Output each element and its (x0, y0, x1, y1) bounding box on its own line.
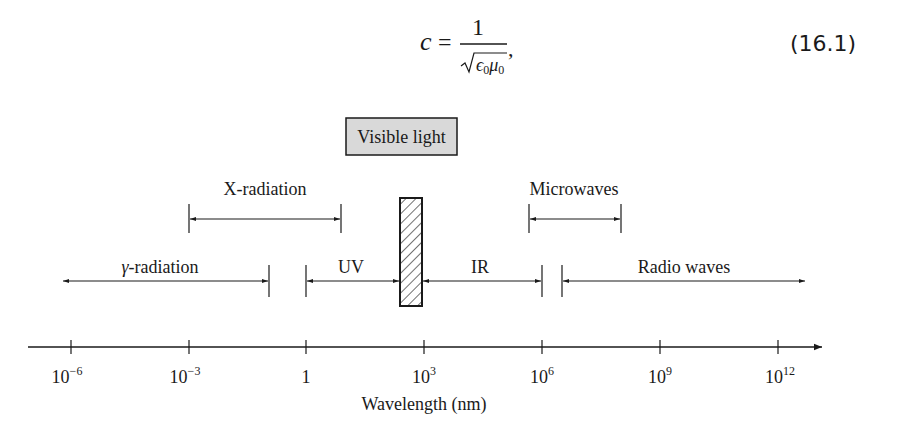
equation-lhs: c (420, 27, 432, 56)
band-uv: UV (306, 257, 399, 297)
tick-label-1: 1 (302, 367, 311, 387)
band-x-radiation: X-radiation (189, 179, 341, 233)
radio-waves-label: Radio waves (638, 257, 730, 277)
ir-label: IR (471, 257, 489, 277)
tick-label-1e-3: 10−3 (170, 364, 201, 387)
tick-label-1e12: 1012 (765, 364, 795, 387)
uv-label: UV (338, 257, 364, 277)
visible-band-hatch (400, 198, 422, 306)
band-ir: IR (423, 257, 542, 297)
tick-label-1e3: 103 (412, 364, 436, 387)
tick-label-1e6: 106 (530, 364, 554, 387)
equation-number: (16.1) (790, 31, 856, 56)
band-microwaves: Microwaves (529, 179, 621, 233)
equation-comma: , (508, 36, 514, 61)
equation-denominator: ϵ0μ0 (476, 55, 504, 77)
axis-label: Wavelength (nm) (361, 394, 486, 415)
tick-label-1e-6: 10−6 (52, 364, 83, 387)
equation-equals: = (438, 29, 452, 55)
gamma-radiation-label: γ-radiation (121, 257, 198, 277)
equation-16-1: c = 1 ϵ0μ0 , (16.1) (420, 14, 856, 77)
equation-numerator: 1 (472, 14, 484, 40)
band-gamma-radiation: γ-radiation (63, 257, 269, 297)
microwaves-label: Microwaves (530, 179, 619, 199)
electromagnetic-spectrum-figure: c = 1 ϵ0μ0 , (16.1) Visible light X-radi… (0, 0, 914, 427)
tick-label-1e9: 109 (648, 364, 672, 387)
wavelength-axis: 10−6 10−3 1 103 106 109 1012 Wavelength … (28, 340, 822, 415)
visible-light-box: Visible light (346, 118, 457, 155)
x-radiation-label: X-radiation (224, 179, 307, 199)
visible-light-label: Visible light (357, 127, 445, 147)
band-radio-waves: Radio waves (562, 257, 805, 297)
